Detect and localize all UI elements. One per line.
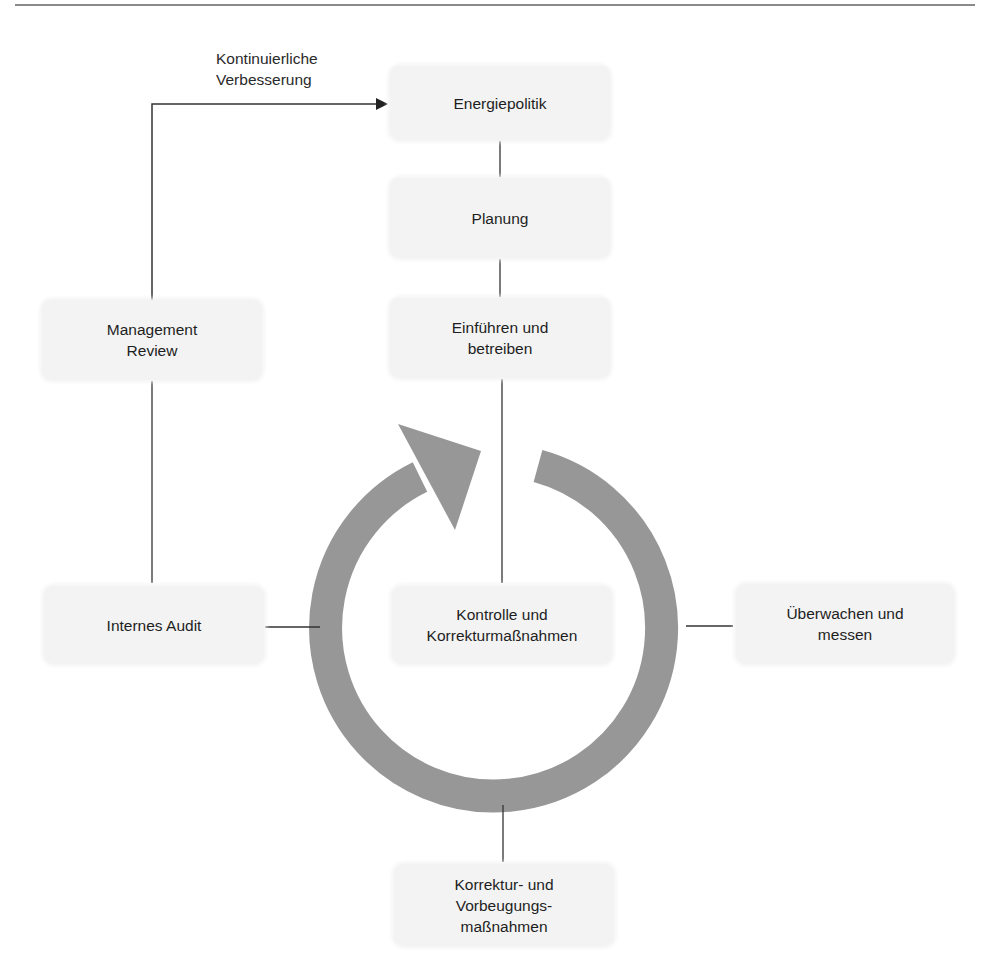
node-label: maßnahmen xyxy=(454,916,553,937)
node-label: betreiben xyxy=(452,338,549,359)
label-line: Verbesserung xyxy=(216,69,318,90)
node-label: Korrekturmaßnahmen xyxy=(427,625,578,646)
continuous-improvement-label: Kontinuierliche Verbesserung xyxy=(216,48,318,90)
improvement-arrow xyxy=(152,104,378,300)
node-label: Korrektur- und xyxy=(454,874,553,895)
cut-off-text-line xyxy=(40,966,940,980)
node-label: Review xyxy=(107,340,197,361)
node-label: Planung xyxy=(472,208,529,229)
node-label: Einführen und xyxy=(452,317,549,338)
node-label: Management xyxy=(107,319,197,340)
arrowhead-icon xyxy=(376,98,388,110)
node-internes-audit: Internes Audit xyxy=(44,586,264,664)
node-label: Vorbeugungs- xyxy=(454,895,553,916)
node-label: messen xyxy=(786,624,903,645)
node-korrektur-vorbeugung: Korrektur- und Vorbeugungs- maßnahmen xyxy=(394,864,614,946)
node-ueberwachen-messen: Überwachen und messen xyxy=(736,584,954,664)
label-line: Kontinuierliche xyxy=(216,48,318,69)
connector-lines xyxy=(0,0,985,980)
node-label: Kontrolle und xyxy=(427,604,578,625)
node-label: Energiepolitik xyxy=(453,93,546,114)
node-management-review: Management Review xyxy=(42,300,262,380)
node-planung: Planung xyxy=(390,178,610,258)
node-einfuehren-betreiben: Einführen und betreiben xyxy=(390,298,610,378)
node-label: Überwachen und xyxy=(786,603,903,624)
node-kontrolle-korrektur: Kontrolle und Korrekturmaßnahmen xyxy=(392,586,612,664)
node-label: Internes Audit xyxy=(107,615,202,636)
node-energiepolitik: Energiepolitik xyxy=(390,66,610,140)
